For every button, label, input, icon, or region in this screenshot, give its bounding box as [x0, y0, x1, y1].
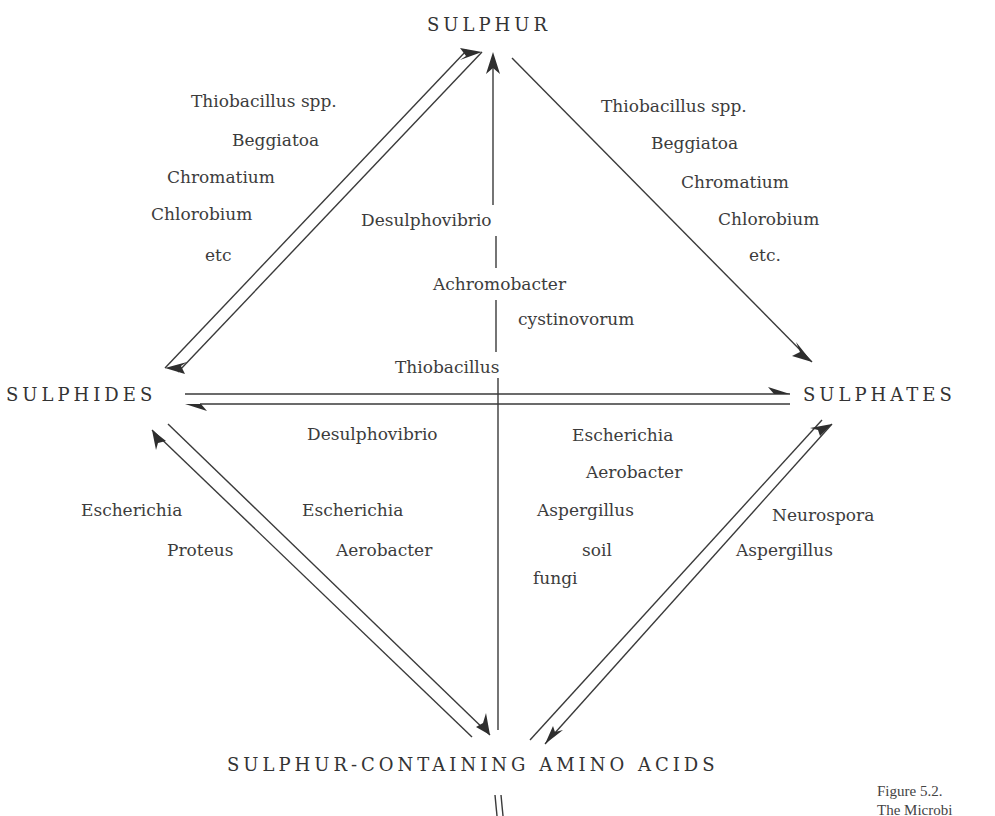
label-organism: Beggiatoa — [651, 133, 738, 153]
label-organism: Proteus — [167, 540, 233, 560]
node-sulphur: SULPHUR — [427, 14, 551, 35]
label-organism: Thiobacillus spp. — [191, 91, 337, 111]
label-organism: Beggiatoa — [232, 130, 319, 150]
label-organism: Escherichia — [81, 500, 182, 520]
arrowhead-icon — [152, 430, 166, 450]
label-organism: Escherichia — [302, 500, 403, 520]
label-organism: cystinovorum — [518, 309, 634, 329]
label-organism: Chromatium — [681, 172, 789, 192]
label-organism: Thiobacillus spp. — [601, 96, 747, 116]
label-organism: Chlorobium — [151, 204, 252, 224]
diagram-arrows — [0, 0, 995, 816]
arrow-sulphides-to-amino — [168, 424, 490, 735]
label-organism: Desulphovibrio — [361, 210, 492, 230]
label-organism: fungi — [533, 568, 578, 588]
node-sulphates: SULPHATES — [803, 384, 956, 405]
label-organism: Achromobacter — [433, 274, 566, 294]
arrowhead-icon — [768, 387, 790, 394]
label-organism: soil — [582, 540, 612, 560]
label-organism: Desulphovibrio — [307, 424, 438, 444]
arrowhead-icon — [185, 404, 207, 411]
figure-number: Figure 5.2. — [877, 783, 942, 800]
label-organism: Chromatium — [167, 167, 275, 187]
figure-title: The Microbi — [877, 802, 952, 816]
label-organism: etc — [205, 245, 231, 265]
node-amino-acids: SULPHUR-CONTAINING AMINO ACIDS — [227, 754, 719, 775]
label-organism: Aerobacter — [336, 540, 432, 560]
label-organism: Escherichia — [572, 425, 673, 445]
label-organism: Thiobacillus — [395, 357, 499, 377]
label-organism: Chlorobium — [718, 209, 819, 229]
label-organism: Aerobacter — [586, 462, 682, 482]
arrow-amino-to-sulphides — [152, 430, 472, 737]
label-organism: etc. — [749, 245, 781, 265]
label-organism: Aspergillus — [537, 500, 634, 520]
label-organism: Aspergillus — [736, 540, 833, 560]
sulphur-cycle-diagram: SULPHUR SULPHIDES SULPHATES SULPHUR-CONT… — [0, 0, 995, 816]
arrowhead-icon — [545, 726, 563, 744]
label-organism: Neurospora — [772, 505, 874, 525]
node-sulphides: SULPHIDES — [6, 384, 156, 405]
